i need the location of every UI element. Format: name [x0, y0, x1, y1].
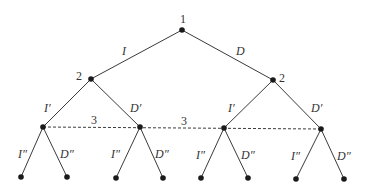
terminal-node	[18, 174, 24, 180]
action-label: D′	[129, 101, 142, 115]
terminal-node	[113, 175, 119, 181]
decision-node	[88, 76, 94, 82]
action-label: D″	[240, 148, 256, 162]
action-label: D	[235, 44, 245, 58]
decision-node	[318, 126, 324, 132]
decision-node	[137, 124, 143, 130]
decision-node	[221, 125, 227, 131]
terminal-node	[245, 175, 251, 181]
action-label: I	[121, 44, 127, 58]
action-label: I″	[195, 148, 206, 162]
action-label: D′	[310, 101, 323, 115]
decision-node	[40, 124, 46, 130]
action-label: I′	[43, 101, 51, 115]
player-label-left: 2	[76, 69, 82, 83]
root-node	[179, 27, 185, 33]
action-label: I′	[227, 101, 235, 115]
terminal-node	[341, 176, 347, 182]
action-label: I″	[110, 147, 121, 161]
info-set-label-right: 3	[181, 114, 187, 128]
decision-node	[270, 77, 276, 83]
action-label: I″	[17, 147, 28, 161]
action-label: D″	[154, 147, 170, 161]
action-label: D″	[59, 147, 75, 161]
terminal-node	[293, 176, 299, 182]
action-label: D″	[336, 149, 352, 163]
player-label-right: 2	[279, 71, 285, 85]
terminal-node	[64, 174, 70, 180]
info-set-label-left: 3	[91, 113, 97, 127]
terminal-node	[160, 175, 166, 181]
player-label-root: 1	[180, 12, 186, 26]
edge-root-right	[182, 30, 273, 80]
edge-root-left	[91, 30, 182, 79]
game-tree: 1 2 2 3 3 I D I′ D′ I′ D′ I″ D″ I″ D″ I″…	[0, 0, 370, 193]
terminal-node	[198, 175, 204, 181]
action-label: I″	[290, 149, 301, 163]
